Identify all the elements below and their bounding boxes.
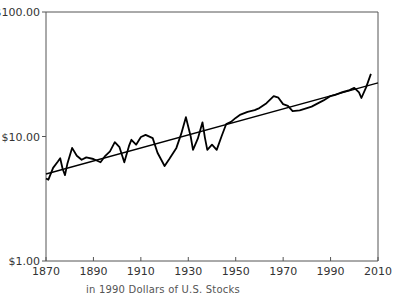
x-tick-label: 1930 bbox=[174, 265, 202, 278]
x-tick-label: 1890 bbox=[79, 265, 107, 278]
x-tick-label: 1990 bbox=[317, 265, 345, 278]
x-axis-ticks: 18701890191019301950197019902010 bbox=[32, 257, 392, 278]
y-tick-label: $10.00 bbox=[2, 131, 41, 144]
x-tick-label: 2010 bbox=[364, 265, 392, 278]
y-axis-ticks: $100.00$10.00$1.00 bbox=[0, 6, 46, 268]
x-tick-label: 1870 bbox=[32, 265, 60, 278]
series-lines bbox=[46, 74, 378, 180]
x-tick-label: 1910 bbox=[127, 265, 155, 278]
caption-text: in 1990 Dollars of U.S. Stocks bbox=[86, 284, 240, 294]
plot-frame bbox=[46, 12, 378, 261]
x-tick-label: 1950 bbox=[222, 265, 250, 278]
price-index-line bbox=[46, 74, 371, 180]
chart-caption: in 1990 Dollars of U.S. Stocks bbox=[86, 284, 397, 294]
stock-price-chart: $100.00$10.00$1.00 187018901910193019501… bbox=[0, 0, 397, 294]
y-tick-label: $100.00 bbox=[0, 6, 40, 19]
x-tick-label: 1970 bbox=[269, 265, 297, 278]
trend-line bbox=[46, 83, 378, 174]
